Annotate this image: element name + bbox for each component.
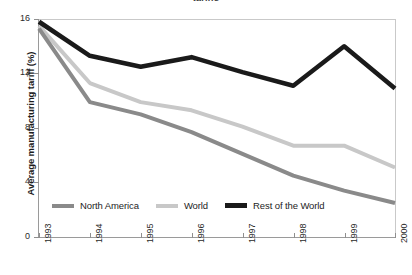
legend-item-rest-of-the-world[interactable]: Rest of the World — [225, 200, 325, 211]
legend-label-north-america: North America — [80, 200, 139, 211]
legend-label-rest-of-the-world: Rest of the World — [253, 200, 325, 211]
legend-swatch-world — [156, 204, 178, 208]
legend-label-world: World — [184, 200, 208, 211]
legend-swatch-north-america — [52, 204, 74, 208]
legend-swatch-rest-of-the-world — [225, 203, 247, 208]
legend-item-world[interactable]: World — [156, 200, 208, 211]
legend-item-north-america[interactable]: North America — [52, 200, 139, 211]
series-line-rest-of-the-world — [39, 22, 395, 89]
chart-plot-lines — [0, 0, 412, 275]
chart-legend: North America World Rest of the World — [52, 200, 342, 211]
chart-screenshot: tariffs Average manufacturing tariff (%)… — [0, 0, 412, 275]
